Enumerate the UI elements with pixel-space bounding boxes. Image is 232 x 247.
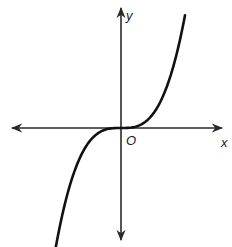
cubic-graph — [0, 0, 232, 247]
y-axis-label: y — [126, 9, 133, 22]
x-axis-label: x — [221, 136, 228, 149]
origin-label: O — [126, 134, 136, 147]
